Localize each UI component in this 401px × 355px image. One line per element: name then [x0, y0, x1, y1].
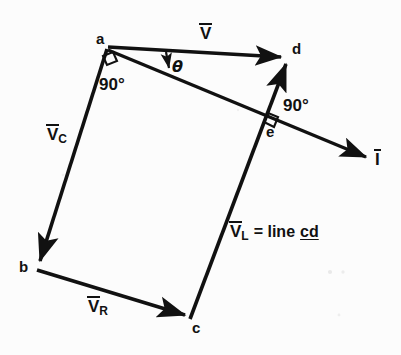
vector-VR-subscript: R [99, 304, 108, 318]
vector-label-VR: VR [88, 297, 108, 317]
angle-label-90-at-e: 90° [283, 97, 309, 114]
point-label-d: d [292, 41, 301, 56]
vector-label-VC: VC [47, 125, 67, 145]
vector-I-symbol: I [375, 150, 380, 168]
vector-V-symbol: V [200, 24, 211, 42]
vector-V-line [108, 47, 281, 57]
vector-VC-subscript: C [58, 132, 67, 146]
vector-VL-symbol: V [230, 222, 241, 240]
point-label-e: e [266, 124, 274, 139]
vector-VC-symbol: V [47, 125, 58, 143]
point-label-b: b [19, 259, 28, 274]
phasor-diagram-svg [0, 0, 401, 355]
vl-equation-text: = line [254, 223, 295, 240]
theta-angle-arc [166, 52, 169, 68]
vector-VC-line [40, 49, 107, 261]
vector-I-line [108, 50, 366, 157]
vl-equation-line-cd: cd [300, 223, 319, 240]
phasor-diagram-canvas: a b c d e V VC VR VL= linecd I 90° 90° θ [0, 0, 401, 355]
angle-label-theta: θ [172, 59, 183, 75]
point-label-c: c [192, 320, 200, 335]
vector-label-V: V [200, 24, 211, 42]
vector-VR-line [37, 270, 185, 315]
vector-VL-subscript: L [241, 229, 248, 243]
point-label-a: a [96, 31, 104, 46]
vector-label-VL-equation: VL= linecd [230, 222, 319, 242]
angle-label-90-at-a: 90° [99, 76, 125, 93]
vector-label-I: I [375, 150, 380, 168]
vector-VR-symbol: V [88, 297, 99, 315]
